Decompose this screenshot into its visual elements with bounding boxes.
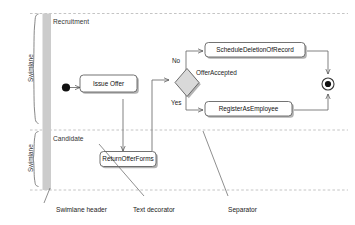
initial-node <box>62 83 70 91</box>
separator-lines <box>30 14 348 191</box>
edge-schedule-to-final <box>307 51 328 74</box>
swimlane-bracket-label-candidate: Swimlane <box>27 144 34 172</box>
swimlane-name-candidate: Candidate <box>53 136 84 143</box>
swimlane-name-recruitment: Recruitment <box>53 19 89 26</box>
diagram-canvas: Recruitment Candidate Swimlane Swimlane … <box>0 0 355 225</box>
edge-register-to-final <box>294 94 328 110</box>
edge-return-forms-to-decision <box>152 80 169 151</box>
edge-label-no: No <box>172 57 180 64</box>
edge-label-yes: Yes <box>171 99 181 106</box>
node-label-schedule-deletion-of-record: ScheduleDeletionOfRecord <box>205 47 305 53</box>
node-label-offer-accepted: OfferAccepted <box>196 69 237 76</box>
flow-edges <box>70 51 328 151</box>
node-label-issue-offer: Issue Offer <box>80 81 137 87</box>
final-node <box>322 78 334 90</box>
annotation-swimlane-header: Swimlane header <box>56 206 107 213</box>
diagram-svg <box>0 0 355 225</box>
node-label-return-offer-forms: ReturnOfferForms <box>100 156 156 162</box>
swimlane-header-band <box>43 14 52 191</box>
annotation-text-decorator: Text decorator <box>133 206 175 213</box>
leader-separator <box>203 131 228 196</box>
node-label-register-as-employee: RegisterAsEmployee <box>205 106 292 112</box>
swimlane-bracket-label-recruitment: Swimlane <box>27 54 34 82</box>
annotation-separator: Separator <box>228 206 257 213</box>
